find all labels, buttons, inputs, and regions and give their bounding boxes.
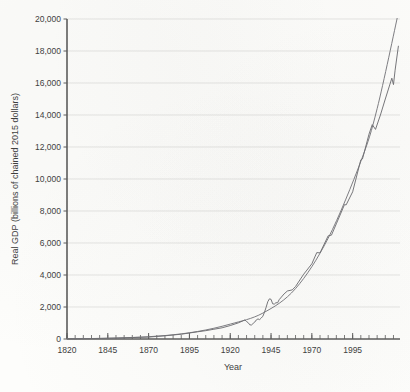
y-axis-title: Real GDP (billions of chained 2015 dolla…	[10, 93, 20, 265]
x-axis-tick-label: 1970	[302, 345, 321, 355]
x-axis-tick-label: 1870	[139, 345, 158, 355]
y-axis-tick-label: 4,000	[40, 270, 62, 280]
x-axis-tick-label: 1845	[98, 345, 117, 355]
y-axis-tick-labels-group: 02,0004,0006,0008,00010,00012,00014,0001…	[35, 14, 61, 344]
y-axis-tick-label: 14,000	[35, 110, 61, 120]
y-axis-tick-label: 18,000	[35, 46, 61, 56]
y-axis-tick-label: 16,000	[35, 78, 61, 88]
data-series-group	[67, 13, 398, 339]
x-axis-tick-label: 1895	[180, 345, 199, 355]
gridlines-group	[67, 19, 400, 307]
x-axis-title: Year	[224, 362, 242, 372]
x-axis-tick-labels-group: 18201845187018951920194519701995	[58, 345, 363, 355]
x-axis-tick-label: 1920	[221, 345, 240, 355]
series-trend-line	[67, 13, 398, 339]
y-axis-tick-label: 8,000	[40, 206, 62, 216]
y-axis-tick-label: 0	[56, 334, 61, 344]
x-axis-tick-label: 1945	[262, 345, 281, 355]
x-axis-tick-label: 1995	[343, 345, 362, 355]
y-axis-tick-label: 12,000	[35, 142, 61, 152]
gdp-line-chart: 02,0004,0006,0008,00010,00012,00014,0001…	[0, 0, 410, 392]
y-axis-tick-label: 6,000	[40, 238, 62, 248]
y-axis-tick-label: 20,000	[35, 14, 61, 24]
x-axis-tick-label: 1820	[58, 345, 77, 355]
y-axis-tick-label: 10,000	[35, 174, 61, 184]
figure-container: 02,0004,0006,0008,00010,00012,00014,0001…	[0, 0, 410, 392]
y-axis-tick-label: 2,000	[40, 302, 62, 312]
